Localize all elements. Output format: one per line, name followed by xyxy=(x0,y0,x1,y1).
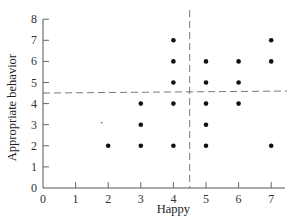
x-tick-label: 3 xyxy=(138,192,144,206)
data-point xyxy=(236,101,241,106)
data-point xyxy=(139,122,144,127)
data-point xyxy=(171,59,176,64)
data-point xyxy=(171,101,176,106)
data-point xyxy=(106,144,111,149)
x-tick-label: 6 xyxy=(236,192,242,206)
y-axis-title: Appropriate behavior xyxy=(5,53,19,161)
data-point xyxy=(139,101,144,106)
data-point xyxy=(204,101,209,106)
y-tick-label: 1 xyxy=(31,160,37,174)
data-point xyxy=(171,38,176,43)
data-point xyxy=(269,144,274,149)
y-ticks: 012345678 xyxy=(31,12,49,195)
horizontal-reference-line xyxy=(43,91,287,93)
data-point xyxy=(204,59,209,64)
y-tick-label: 0 xyxy=(31,181,37,195)
y-tick-label: 4 xyxy=(31,97,37,111)
data-point xyxy=(204,80,209,85)
y-tick-label: 8 xyxy=(31,12,37,26)
data-point xyxy=(269,59,274,64)
data-point xyxy=(204,122,209,127)
x-tick-label: 1 xyxy=(73,192,79,206)
y-tick-label: 5 xyxy=(31,76,37,90)
x-tick-label: 5 xyxy=(203,192,209,206)
x-tick-label: 0 xyxy=(40,192,46,206)
x-tick-label: 2 xyxy=(105,192,111,206)
data-points xyxy=(101,38,274,148)
x-axis-title: Happy xyxy=(157,202,191,216)
minor-mark xyxy=(101,122,103,124)
data-point xyxy=(236,59,241,64)
y-tick-label: 2 xyxy=(31,139,37,153)
data-point xyxy=(269,38,274,43)
scatter-chart: 01234567 012345678 Happy Appropriate beh… xyxy=(0,0,294,221)
data-point xyxy=(139,144,144,149)
y-tick-label: 3 xyxy=(31,118,37,132)
x-tick-label: 7 xyxy=(268,192,274,206)
data-point xyxy=(171,80,176,85)
y-tick-label: 7 xyxy=(31,33,37,47)
reference-lines xyxy=(43,10,287,188)
data-point xyxy=(236,80,241,85)
y-tick-label: 6 xyxy=(31,54,37,68)
axes xyxy=(43,19,285,188)
data-point xyxy=(171,144,176,149)
data-point xyxy=(204,144,209,149)
